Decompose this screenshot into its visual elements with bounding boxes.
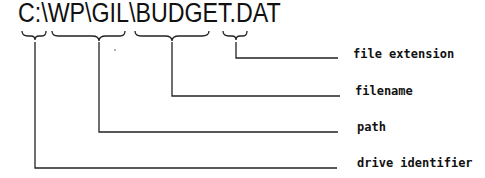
- drive-brace: [22, 31, 46, 40]
- path-brace: [52, 31, 125, 41]
- label-filename: filename: [355, 84, 413, 98]
- label-file-extension: file extension: [353, 47, 454, 61]
- filename-connector: [172, 42, 340, 96]
- extension-brace: [223, 31, 247, 40]
- drive-connector: [35, 42, 337, 168]
- label-drive-identifier: drive identifier: [357, 156, 473, 170]
- path-connector: [99, 42, 338, 132]
- extension-connector: [236, 42, 338, 58]
- label-path: path: [357, 120, 386, 134]
- filename-brace: [135, 31, 209, 41]
